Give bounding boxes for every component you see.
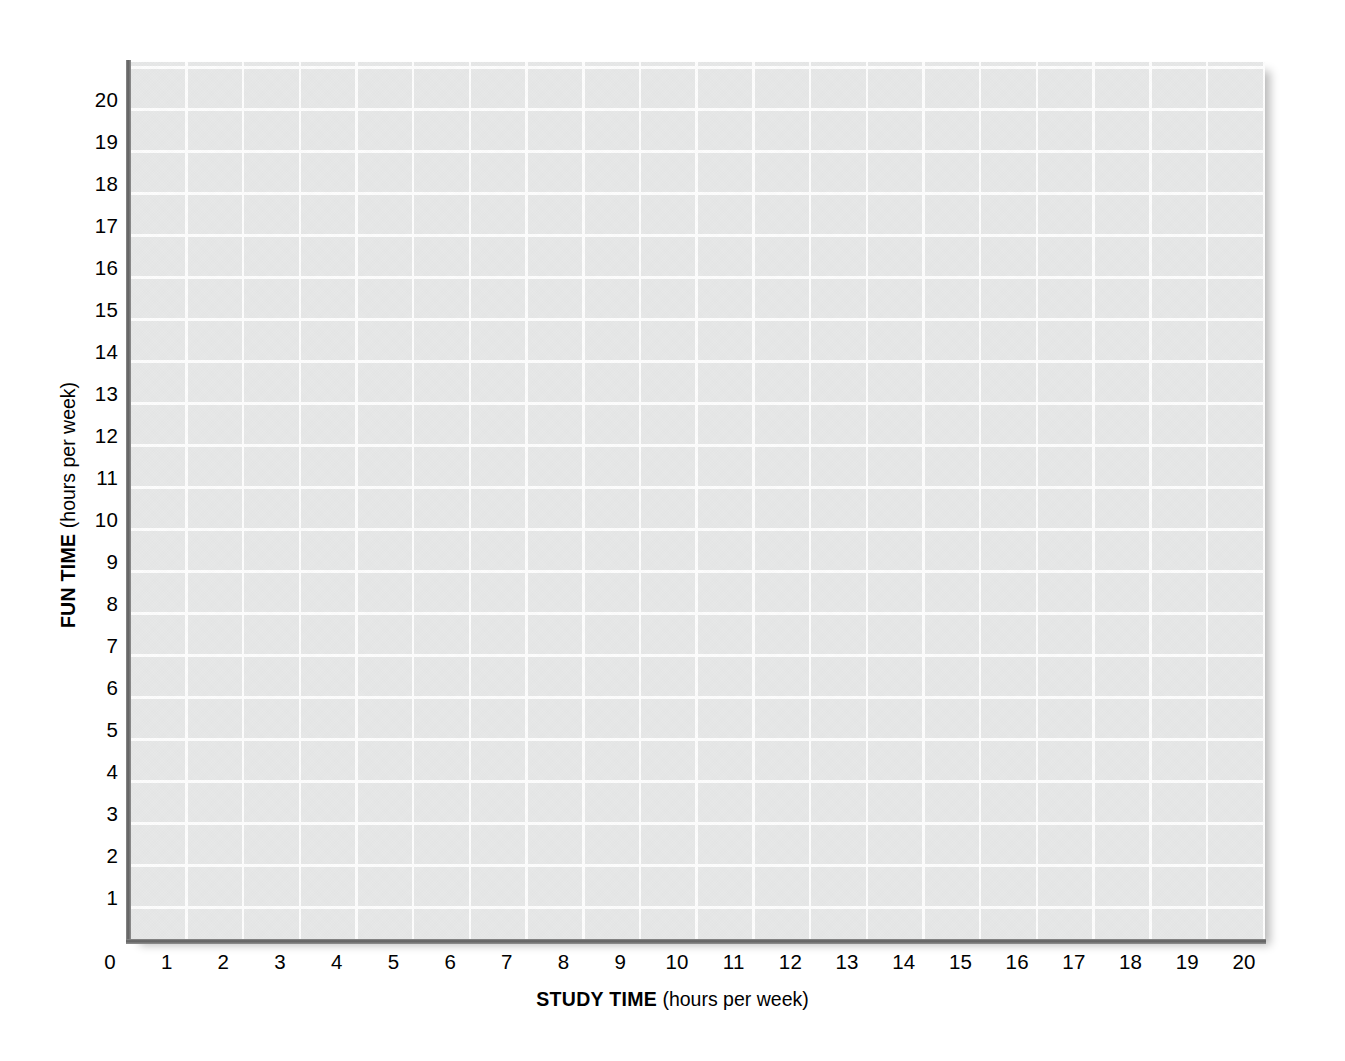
y-tick-label: 4 bbox=[18, 762, 118, 783]
y-tick-label: 3 bbox=[18, 804, 118, 825]
y-tick-label: 19 bbox=[18, 132, 118, 153]
plot-area[interactable] bbox=[131, 62, 1265, 940]
x-tick-label: 17 bbox=[1044, 952, 1104, 973]
y-axis-title-light: (hours per week) bbox=[57, 382, 79, 534]
x-tick-label: 9 bbox=[590, 952, 650, 973]
x-tick-label: 8 bbox=[534, 952, 594, 973]
x-tick-label: 3 bbox=[250, 952, 310, 973]
x-axis-line bbox=[126, 939, 1266, 944]
y-tick-label: 7 bbox=[18, 636, 118, 657]
x-tick-label: 0 bbox=[80, 952, 140, 973]
y-tick-label: 18 bbox=[18, 174, 118, 195]
x-tick-label: 18 bbox=[1101, 952, 1161, 973]
x-tick-label: 7 bbox=[477, 952, 537, 973]
x-axis-tick-labels: 01234567891011121314151617181920 bbox=[0, 952, 1345, 982]
x-axis-title-light: (hours per week) bbox=[657, 988, 809, 1010]
x-tick-label: 15 bbox=[931, 952, 991, 973]
x-tick-label: 6 bbox=[420, 952, 480, 973]
y-tick-label: 20 bbox=[18, 90, 118, 111]
x-tick-label: 12 bbox=[760, 952, 820, 973]
y-tick-label: 5 bbox=[18, 720, 118, 741]
y-tick-label: 14 bbox=[18, 342, 118, 363]
y-tick-label: 16 bbox=[18, 258, 118, 279]
x-tick-label: 11 bbox=[704, 952, 764, 973]
x-tick-label: 14 bbox=[874, 952, 934, 973]
y-tick-label: 15 bbox=[18, 300, 118, 321]
x-tick-label: 5 bbox=[364, 952, 424, 973]
x-tick-label: 19 bbox=[1157, 952, 1217, 973]
x-tick-label: 1 bbox=[137, 952, 197, 973]
y-tick-label: 2 bbox=[18, 846, 118, 867]
x-tick-label: 4 bbox=[307, 952, 367, 973]
x-axis-title: STUDY TIME (hours per week) bbox=[0, 988, 1345, 1011]
x-tick-label: 2 bbox=[193, 952, 253, 973]
x-tick-label: 10 bbox=[647, 952, 707, 973]
y-axis-line bbox=[126, 60, 131, 944]
y-axis-title-bold: FUN TIME bbox=[57, 534, 79, 628]
x-tick-label: 16 bbox=[987, 952, 1047, 973]
chart-figure: 1234567891011121314151617181920 01234567… bbox=[0, 0, 1345, 1061]
y-tick-label: 6 bbox=[18, 678, 118, 699]
x-tick-label: 20 bbox=[1214, 952, 1274, 973]
y-axis-title: FUN TIME (hours per week) bbox=[57, 382, 80, 628]
y-tick-label: 1 bbox=[18, 888, 118, 909]
x-tick-label: 13 bbox=[817, 952, 877, 973]
y-tick-label: 17 bbox=[18, 216, 118, 237]
grid-lines bbox=[131, 62, 1265, 940]
x-axis-title-bold: STUDY TIME bbox=[536, 988, 657, 1010]
